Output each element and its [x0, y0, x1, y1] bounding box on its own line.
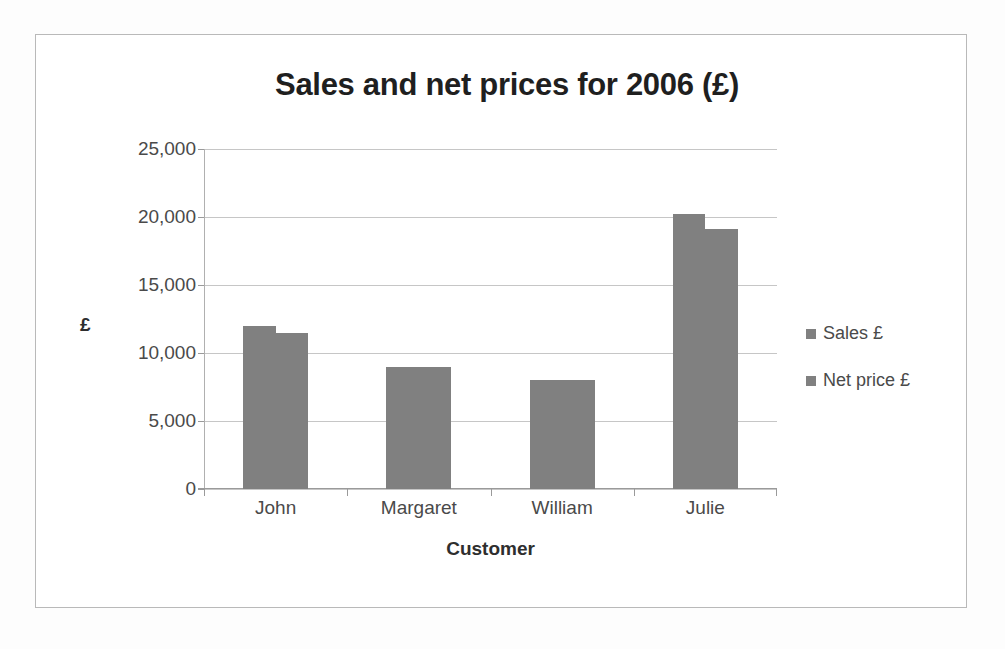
y-axis-tick-label: 25,000	[138, 138, 196, 160]
chart-frame: Sales and net prices for 2006 (£) £ 05,0…	[35, 34, 967, 608]
x-axis-category-label: William	[532, 497, 593, 519]
legend-label: Net price £	[823, 370, 910, 391]
legend-item[interactable]: Net price £	[806, 370, 956, 391]
gridline	[204, 149, 777, 150]
y-axis-tick-label: 15,000	[138, 274, 196, 296]
legend-label: Sales £	[823, 323, 883, 344]
y-axis-tick-label: 0	[185, 478, 196, 500]
bar	[530, 380, 563, 489]
x-axis-separator	[491, 489, 492, 496]
x-axis-separator	[204, 489, 205, 496]
x-axis-separator	[776, 489, 777, 496]
bar	[673, 214, 706, 489]
x-axis-separator	[634, 489, 635, 496]
chart-legend: Sales £Net price £	[806, 323, 956, 417]
x-axis-category-label: Margaret	[381, 497, 457, 519]
x-axis-category-label: John	[255, 497, 296, 519]
x-axis-category-label: Julie	[686, 497, 725, 519]
y-axis-tick-label: 20,000	[138, 206, 196, 228]
x-axis-separator	[347, 489, 348, 496]
y-axis-tick-labels: 05,00010,00015,00020,00025,000	[56, 149, 196, 489]
bar	[705, 229, 738, 489]
bar	[243, 326, 276, 489]
bar	[276, 333, 309, 489]
legend-swatch-icon	[806, 329, 816, 339]
bar	[419, 367, 452, 489]
plot-area	[204, 149, 777, 489]
legend-item[interactable]: Sales £	[806, 323, 956, 344]
legend-swatch-icon	[806, 376, 816, 386]
chart-title: Sales and net prices for 2006 (£)	[36, 67, 966, 103]
bar	[562, 380, 595, 489]
y-axis-tick-label: 10,000	[138, 342, 196, 364]
bar	[386, 367, 419, 489]
x-axis-category-labels: JohnMargaretWilliamJulie	[204, 497, 777, 527]
y-axis-line	[204, 149, 205, 489]
x-axis-title: Customer	[204, 538, 777, 560]
y-axis-tick-label: 5,000	[148, 410, 196, 432]
